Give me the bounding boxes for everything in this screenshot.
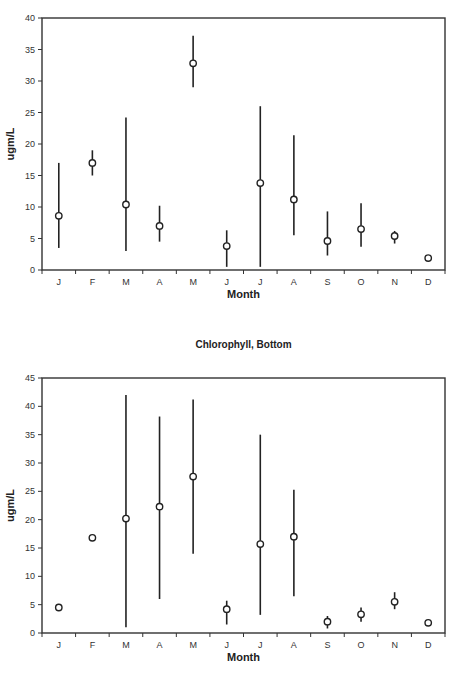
x-tick-label: A	[291, 640, 297, 650]
y-axis-title: ugm/L	[4, 127, 16, 160]
y-tick-label: 25	[25, 108, 35, 118]
y-tick-label: 10	[25, 202, 35, 212]
x-tick-label: S	[324, 277, 330, 287]
y-tick-label: 20	[25, 139, 35, 149]
x-tick-label: J	[258, 640, 263, 650]
x-axis-title: Month	[227, 651, 260, 663]
y-axis-title: ugm/L	[4, 489, 16, 522]
y-tick-label: 35	[25, 430, 35, 440]
x-tick-label: O	[358, 277, 365, 287]
figure: 0510152025303540JFMAMJJASONDMonthugm/L05…	[0, 0, 457, 674]
y-tick-label: 0	[30, 628, 35, 638]
data-point-marker	[425, 255, 431, 261]
x-tick-label: J	[224, 640, 229, 650]
y-tick-label: 30	[25, 76, 35, 86]
y-tick-label: 20	[25, 515, 35, 525]
x-tick-label: M	[122, 277, 130, 287]
data-point-marker	[123, 515, 129, 521]
data-point-marker	[358, 611, 364, 617]
chart-2: 051015202530354045JFMAMJJASONDMonthugm/L…	[4, 339, 445, 663]
x-tick-label: M	[122, 640, 130, 650]
x-tick-label: D	[425, 640, 432, 650]
x-tick-label: A	[157, 277, 163, 287]
x-tick-label: A	[291, 277, 297, 287]
x-tick-label: J	[57, 277, 62, 287]
data-point-marker	[291, 533, 297, 539]
y-tick-label: 15	[25, 543, 35, 553]
x-tick-label: J	[258, 277, 263, 287]
y-tick-label: 25	[25, 486, 35, 496]
x-tick-label: M	[189, 277, 197, 287]
data-point-marker	[291, 196, 297, 202]
data-point-marker	[89, 535, 95, 541]
data-point-marker	[224, 606, 230, 612]
data-point-marker	[89, 160, 95, 166]
y-tick-label: 45	[25, 373, 35, 383]
data-point-marker	[425, 620, 431, 626]
data-point-marker	[56, 604, 62, 610]
data-point-marker	[324, 238, 330, 244]
y-tick-label: 30	[25, 458, 35, 468]
data-point-marker	[358, 226, 364, 232]
y-tick-label: 10	[25, 571, 35, 581]
chart-title: Chlorophyll, Bottom	[195, 339, 291, 350]
x-tick-label: M	[189, 640, 197, 650]
y-tick-label: 5	[30, 234, 35, 244]
plot-frame	[42, 378, 445, 633]
y-tick-label: 0	[30, 265, 35, 275]
plot-frame	[42, 18, 445, 270]
x-tick-label: O	[358, 640, 365, 650]
data-point-marker	[156, 503, 162, 509]
y-tick-label: 40	[25, 401, 35, 411]
chart-1: 0510152025303540JFMAMJJASONDMonthugm/L	[4, 13, 445, 300]
x-tick-label: F	[90, 277, 96, 287]
data-point-marker	[190, 473, 196, 479]
data-point-marker	[224, 243, 230, 249]
x-tick-label: A	[157, 640, 163, 650]
x-tick-label: D	[425, 277, 432, 287]
data-point-marker	[257, 541, 263, 547]
y-tick-label: 35	[25, 45, 35, 55]
x-tick-label: J	[57, 640, 62, 650]
y-tick-label: 15	[25, 171, 35, 181]
x-axis-title: Month	[227, 288, 260, 300]
data-point-marker	[391, 599, 397, 605]
data-point-marker	[391, 233, 397, 239]
data-point-marker	[156, 223, 162, 229]
data-point-marker	[257, 180, 263, 186]
y-tick-label: 5	[30, 600, 35, 610]
x-tick-label: S	[324, 640, 330, 650]
x-tick-label: N	[391, 640, 398, 650]
data-point-marker	[123, 201, 129, 207]
data-point-marker	[56, 213, 62, 219]
data-point-marker	[190, 60, 196, 66]
x-tick-label: F	[90, 640, 96, 650]
y-tick-label: 40	[25, 13, 35, 23]
data-point-marker	[324, 618, 330, 624]
x-tick-label: J	[224, 277, 229, 287]
x-tick-label: N	[391, 277, 398, 287]
